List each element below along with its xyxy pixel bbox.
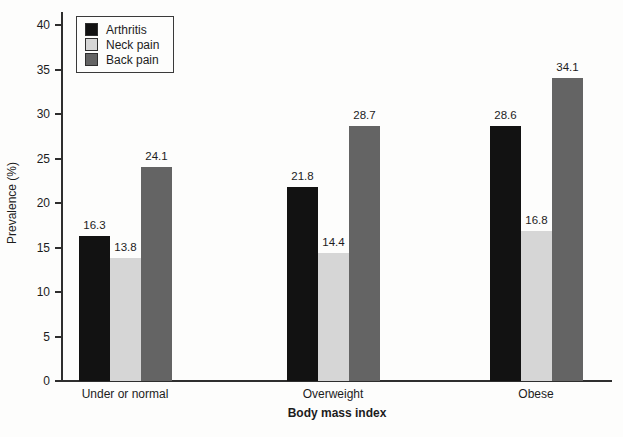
y-tick-label: 0 — [24, 374, 50, 388]
bar-value-label: 34.1 — [543, 61, 592, 74]
y-tick-label: 30 — [24, 107, 50, 121]
y-axis-title: Prevalence (%) — [5, 148, 19, 258]
y-tick-mark — [55, 24, 62, 26]
y-tick-label: 35 — [24, 63, 50, 77]
y-tick-mark — [55, 113, 62, 115]
y-tick-mark — [55, 336, 62, 338]
y-tick-mark — [55, 380, 62, 382]
bar-arthritis — [79, 236, 110, 381]
bar-back-pain — [349, 126, 380, 381]
legend-swatch-icon — [85, 53, 98, 66]
bar-neck-pain — [521, 231, 552, 381]
x-category-label: Obese — [466, 387, 606, 401]
y-tick-mark — [55, 291, 62, 293]
y-axis-line — [61, 12, 63, 382]
y-tick-mark — [55, 158, 62, 160]
y-tick-label: 20 — [24, 196, 50, 210]
y-tick-label: 15 — [24, 241, 50, 255]
y-tick-label: 25 — [24, 152, 50, 166]
bar-value-label: 21.8 — [278, 170, 327, 183]
legend-label: Back pain — [106, 53, 159, 67]
bar-value-label: 28.6 — [481, 109, 530, 122]
legend-item: Arthritis — [85, 22, 159, 37]
y-tick-mark — [55, 69, 62, 71]
legend-item: Back pain — [85, 52, 159, 67]
legend-swatch-icon — [85, 23, 98, 36]
x-category-label: Overweight — [263, 387, 403, 401]
legend-item: Neck pain — [85, 37, 159, 52]
bar-value-label: 24.1 — [132, 150, 181, 163]
legend-label: Neck pain — [106, 38, 159, 52]
legend-label: Arthritis — [106, 23, 147, 37]
bar-neck-pain — [110, 258, 141, 381]
x-category-label: Under or normal — [55, 387, 195, 401]
bar-back-pain — [141, 167, 172, 381]
legend: ArthritisNeck painBack pain — [76, 16, 174, 73]
y-tick-label: 5 — [24, 330, 50, 344]
bar-arthritis — [287, 187, 318, 381]
x-axis-title: Body mass index — [237, 406, 437, 420]
legend-swatch-icon — [85, 38, 98, 51]
bar-chart: Prevalence (%) Body mass index Arthritis… — [0, 0, 623, 437]
bar-neck-pain — [318, 253, 349, 381]
y-tick-label: 40 — [24, 18, 50, 32]
bar-back-pain — [552, 78, 583, 381]
bar-value-label: 16.3 — [70, 219, 119, 232]
y-tick-label: 10 — [24, 285, 50, 299]
y-tick-mark — [55, 202, 62, 204]
bar-value-label: 28.7 — [340, 109, 389, 122]
y-tick-mark — [55, 247, 62, 249]
bar-arthritis — [490, 126, 521, 381]
